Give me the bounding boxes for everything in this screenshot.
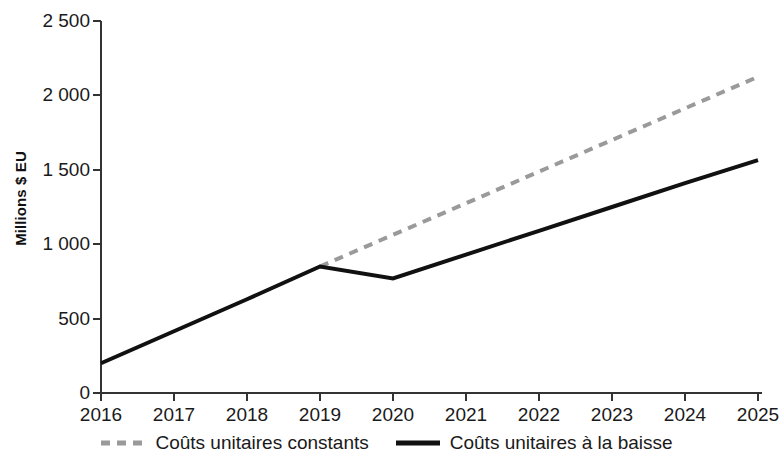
series-line-constant-costs: [320, 77, 758, 267]
legend-label-constant-costs: Coûts unitaires constants: [155, 432, 368, 454]
axis-lines: [101, 21, 762, 393]
y-axis-ticks: [93, 21, 101, 393]
chart-legend: Coûts unitaires constants Coûts unitaire…: [0, 432, 773, 454]
legend-label-declining-costs: Coûts unitaires à la baisse: [450, 432, 673, 454]
legend-item-constant-costs[interactable]: Coûts unitaires constants: [100, 432, 368, 454]
dashed-line-icon: [100, 437, 146, 449]
series-line-declining-costs: [101, 160, 758, 363]
x-axis-ticks: [101, 393, 758, 401]
legend-item-declining-costs[interactable]: Coûts unitaires à la baisse: [395, 432, 673, 454]
solid-line-icon: [395, 437, 441, 449]
